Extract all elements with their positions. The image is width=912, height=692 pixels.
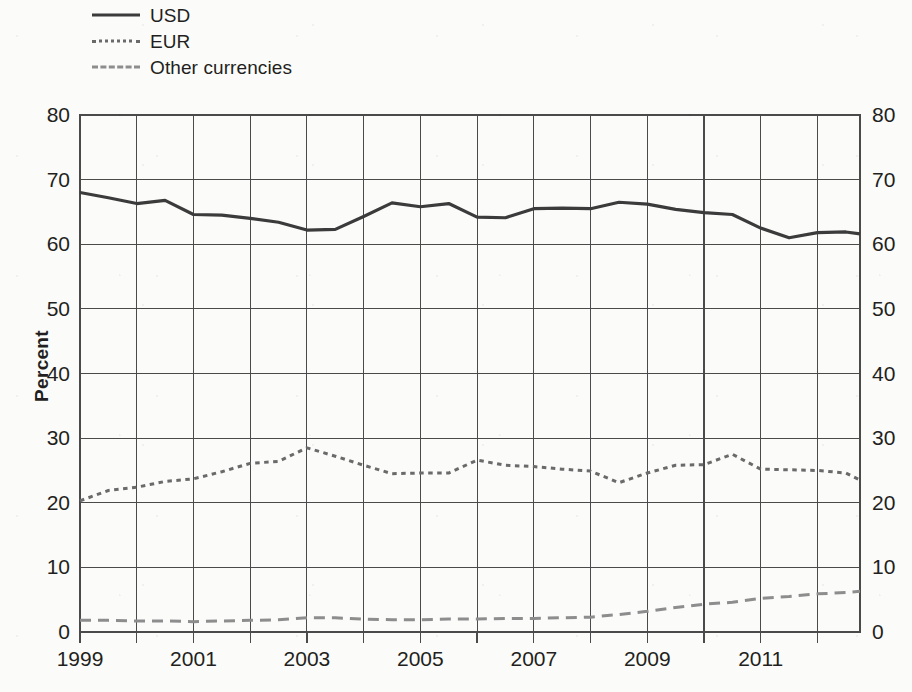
x-axis-tick-2005: 2005	[380, 648, 460, 669]
page-background: USD EUR Other currencies Percent 0102030…	[0, 0, 912, 692]
y-axis-tick-0-left: 0	[24, 621, 70, 642]
y-axis-tick-10-right: 10	[872, 556, 912, 577]
plot-canvas	[0, 0, 912, 692]
data-series-layer	[80, 193, 860, 622]
y-axis-tick-70-left: 70	[24, 169, 70, 190]
y-axis-tick-50-right: 50	[872, 298, 912, 319]
y-axis-tick-20-right: 20	[872, 492, 912, 513]
x-axis-tick-2007: 2007	[494, 648, 574, 669]
x-axis-tick-2009: 2009	[607, 648, 687, 669]
chart-figure: USD EUR Other currencies Percent 0102030…	[0, 0, 912, 692]
gridlines	[80, 115, 860, 632]
y-axis-tick-80-right: 80	[872, 104, 912, 125]
y-axis-tick-50-left: 50	[24, 298, 70, 319]
x-axis-tick-2011: 2011	[721, 648, 801, 669]
x-axis-tick-1999: 1999	[40, 648, 120, 669]
y-axis-tick-30-right: 30	[872, 427, 912, 448]
y-axis-tick-70-right: 70	[872, 169, 912, 190]
x-axis-tick-2003: 2003	[267, 648, 347, 669]
y-axis-tick-60-right: 60	[872, 233, 912, 254]
series-line-other-currencies	[80, 591, 860, 621]
y-axis-tick-40-left: 40	[24, 363, 70, 384]
y-axis-tick-60-left: 60	[24, 233, 70, 254]
y-axis-tick-30-left: 30	[24, 427, 70, 448]
series-line-eur	[80, 448, 860, 501]
y-axis-tick-0-right: 0	[872, 621, 912, 642]
series-line-usd	[80, 193, 860, 238]
y-axis-tick-10-left: 10	[24, 556, 70, 577]
y-axis-tick-40-right: 40	[872, 363, 912, 384]
x-axis-tick-2001: 2001	[153, 648, 233, 669]
x-axis-tick-marks	[80, 632, 817, 643]
y-axis-tick-20-left: 20	[24, 492, 70, 513]
y-axis-tick-80-left: 80	[24, 104, 70, 125]
